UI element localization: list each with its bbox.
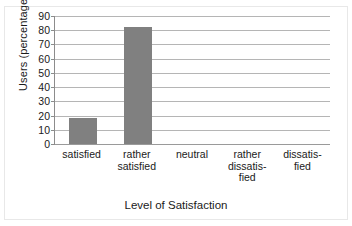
bar-chart-figure: Users (percentage) 0102030405060708090 s… (0, 0, 352, 226)
x-axis-tick-label-line: neutral (164, 149, 219, 161)
plot-area (54, 16, 330, 144)
x-axis-tick-label-line: rather (109, 149, 164, 161)
bar[interactable] (69, 118, 97, 144)
x-axis-tick-label-line: satisfied (54, 149, 109, 161)
y-axis-tick-label: 20 (26, 111, 50, 121)
x-axis-tick-label-line: fied (220, 172, 275, 184)
y-axis-tick-label: 30 (26, 96, 50, 106)
x-axis-tick-label: dissatis-fied (275, 149, 330, 172)
y-axis-tick-label: 80 (26, 25, 50, 35)
y-axis-tick-label: 70 (26, 39, 50, 49)
y-axis-tick-label: 50 (26, 68, 50, 78)
x-axis-tick-label: neutral (164, 149, 219, 161)
bar[interactable] (124, 27, 152, 144)
bars-layer (55, 16, 330, 144)
y-axis-tick-label: 0 (26, 139, 50, 149)
y-axis-tick-label: 90 (26, 11, 50, 21)
bar-slot (165, 16, 220, 144)
x-axis-tick-label: ratherdissatis-fied (220, 149, 275, 184)
y-axis-tick (51, 144, 55, 145)
x-axis-tick-label-line: dissatis- (275, 149, 330, 161)
x-axis-tick-labels: satisfiedrathersatisfiedneutralratherdis… (54, 149, 330, 195)
bar-slot (221, 16, 276, 144)
y-axis-tick-label: 60 (26, 54, 50, 64)
bar-slot (55, 16, 110, 144)
y-axis-tick-label: 10 (26, 125, 50, 135)
x-axis-tick-label-line: rather (220, 149, 275, 161)
x-axis-tick-label: satisfied (54, 149, 109, 161)
x-axis-tick-label: rathersatisfied (109, 149, 164, 172)
bar-slot (110, 16, 165, 144)
y-axis-tick-labels: 0102030405060708090 (26, 16, 50, 144)
bar-slot (276, 16, 331, 144)
x-axis-tick-label-line: fied (275, 161, 330, 173)
y-axis-tick-label: 40 (26, 82, 50, 92)
gridline (55, 144, 330, 145)
x-axis-tick-label-line: satisfied (109, 161, 164, 173)
x-axis-title: Level of Satisfaction (0, 199, 352, 211)
